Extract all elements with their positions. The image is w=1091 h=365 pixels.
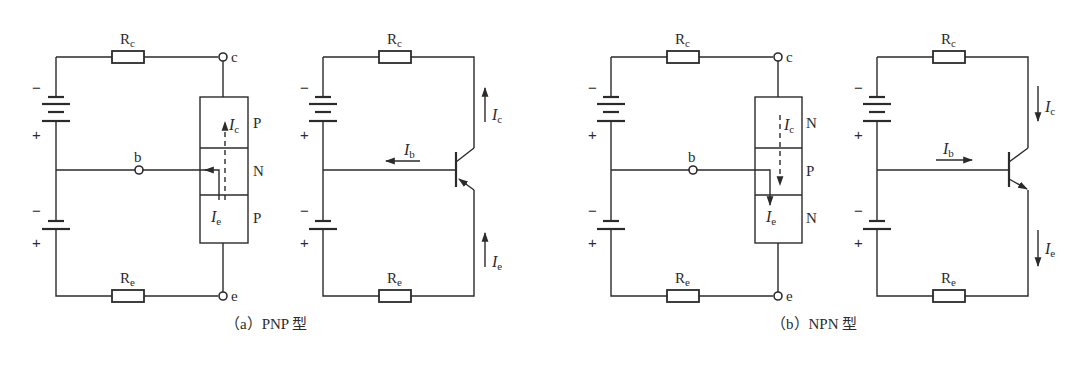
minus-sign: − — [854, 202, 863, 219]
pnp-symbol-circuit: − + − + Rc Re Ic Ib Ie — [300, 31, 502, 302]
plus-sign: + — [32, 234, 41, 251]
battery-lower — [597, 221, 625, 229]
rc-label: Rc — [120, 31, 135, 49]
minus-sign: − — [300, 79, 309, 96]
terminal-c — [219, 53, 227, 61]
layer-label: P — [806, 163, 814, 179]
terminal-c — [774, 53, 782, 61]
plus-sign: + — [588, 234, 597, 251]
minus-sign: − — [588, 202, 597, 219]
layer-label: P — [253, 115, 261, 131]
battery-lower — [309, 221, 337, 229]
ib-internal-arrow — [755, 170, 770, 205]
terminal-e-label: e — [786, 288, 793, 304]
ie-label: Ie — [1044, 240, 1055, 259]
resistor-rc — [112, 51, 144, 63]
pnp-transistor-symbol — [456, 148, 474, 190]
rc-label: Rc — [675, 31, 690, 49]
left-bottom-wire — [877, 57, 1028, 296]
terminal-b-label: b — [688, 149, 696, 165]
resistor-rc — [667, 51, 699, 63]
battery-upper — [309, 97, 337, 121]
top-right-wire — [323, 57, 474, 148]
battery-upper — [863, 97, 891, 121]
resistor-rc — [379, 51, 411, 63]
re-label: Re — [941, 270, 956, 288]
ic-label: Ic — [1044, 98, 1055, 117]
left-wire — [611, 57, 773, 296]
caption-a: （a）PNP 型 — [225, 316, 307, 332]
battery-lower — [42, 221, 70, 229]
ic-label: Ic — [491, 106, 502, 125]
caption-b: （b）NPN 型 — [771, 316, 857, 332]
npn-symbol-circuit: − + − + Rc Re Ic Ib Ie — [854, 31, 1055, 302]
battery-lower — [863, 221, 891, 229]
ib-label: Ib — [403, 141, 415, 160]
terminal-b — [135, 166, 143, 174]
layer-label: N — [253, 163, 264, 179]
transistor-bias-diagram: − + − + c b e Rc Re P N P Ic Ie — [0, 0, 1091, 365]
npn-transistor-symbol — [1009, 148, 1028, 189]
re-label: Re — [675, 270, 690, 288]
layer-label: N — [806, 210, 817, 226]
terminal-e-label: e — [231, 288, 238, 304]
battery-upper — [42, 97, 70, 121]
layer-label: N — [806, 115, 817, 131]
ic-label: Ic — [783, 116, 794, 135]
plus-sign: + — [300, 234, 309, 251]
plus-sign: + — [854, 234, 863, 251]
ie-label: Ie — [210, 208, 221, 227]
layer-label: P — [253, 210, 261, 226]
ie-label: Ie — [765, 208, 776, 227]
ic-label: Ic — [228, 116, 239, 135]
rc-label: Rc — [387, 31, 402, 49]
terminal-c-label: c — [786, 49, 793, 65]
plus-sign: + — [854, 126, 863, 143]
rc-label: Rc — [941, 31, 956, 49]
left-bottom-wire — [323, 57, 474, 296]
resistor-re — [379, 290, 411, 302]
top-right-wire — [877, 57, 1028, 148]
resistor-rc — [933, 51, 965, 63]
ib-label: Ib — [942, 140, 954, 159]
minus-sign: − — [32, 202, 41, 219]
minus-sign: − — [32, 79, 41, 96]
ie-label: Ie — [491, 253, 502, 272]
resistor-re — [667, 290, 699, 302]
terminal-b — [689, 166, 697, 174]
re-label: Re — [120, 270, 135, 288]
terminal-e — [774, 292, 782, 300]
terminal-e — [219, 292, 227, 300]
resistor-re — [112, 290, 144, 302]
pnp-block-circuit: − + − + c b e Rc Re P N P Ic Ie — [32, 31, 264, 304]
battery-upper — [597, 97, 625, 121]
terminal-b-label: b — [134, 149, 142, 165]
plus-sign: + — [300, 126, 309, 143]
plus-sign: + — [588, 126, 597, 143]
resistor-re — [933, 290, 965, 302]
plus-sign: + — [32, 126, 41, 143]
minus-sign: − — [588, 79, 597, 96]
re-label: Re — [387, 270, 402, 288]
terminal-c-label: c — [231, 49, 238, 65]
npn-block-circuit: − + − + c b e Rc Re N P N Ic Ie — [588, 31, 817, 304]
left-wire — [56, 57, 218, 296]
minus-sign: − — [854, 79, 863, 96]
minus-sign: − — [300, 202, 309, 219]
